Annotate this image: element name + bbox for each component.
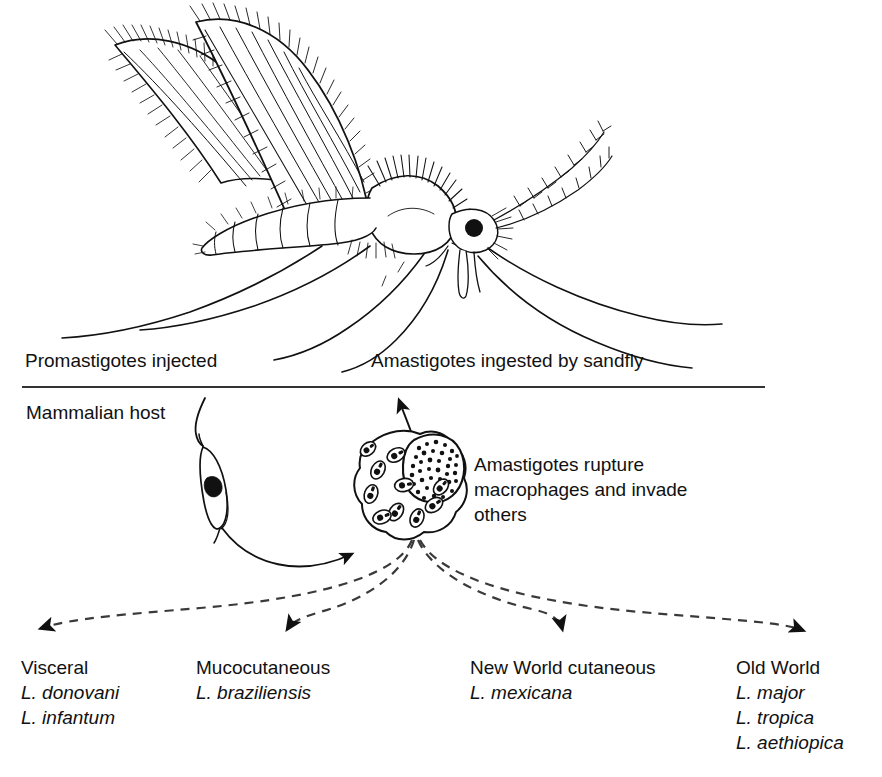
dissemination-arrows xyxy=(42,540,802,630)
mammalian-host-label: Mammalian host xyxy=(26,400,165,425)
outcome-visceral-heading: Visceral xyxy=(21,655,119,680)
arrow-to-visceral xyxy=(42,540,412,628)
outcome-old-world-species-0: L. major xyxy=(736,680,844,705)
rupture-line-2: macrophages and invade xyxy=(474,477,687,502)
rupture-line-1: Amastigotes rupture xyxy=(474,452,687,477)
outcome-mucocutaneous-species-0: L. braziliensis xyxy=(196,680,330,705)
promastigote-cell xyxy=(195,398,228,543)
outcome-mucocutaneous-heading: Mucocutaneous xyxy=(196,655,330,680)
outcome-new-world-cutaneous-species-0: L. mexicana xyxy=(470,680,656,705)
outcome-new-world-cutaneous-heading: New World cutaneous xyxy=(470,655,656,680)
outcome-visceral-species-1: L. infantum xyxy=(21,705,119,730)
invasion-arrow xyxy=(222,528,352,566)
rupture-line-3: others xyxy=(474,502,687,527)
amastigotes-rupture-caption: Amastigotes rupture macrophages and inva… xyxy=(474,452,687,527)
leishmania-lifecycle-figure: Promastigotes injected Amastigotes inges… xyxy=(0,0,882,777)
outcome-old-world-heading: Old World xyxy=(736,655,844,680)
arrow-to-mucocutaneous xyxy=(288,540,414,628)
promastigotes-injected-label: Promastigotes injected xyxy=(25,348,217,373)
outcome-old-world: Old World L. major L. tropica L. aethiop… xyxy=(736,655,844,755)
outcome-old-world-species-1: L. tropica xyxy=(736,705,844,730)
outcome-mucocutaneous: Mucocutaneous L. braziliensis xyxy=(196,655,330,705)
amastigotes-ingested-label: Amastigotes ingested by sandfly xyxy=(371,348,644,373)
outcome-old-world-species-2: L. aethiopica xyxy=(736,730,844,755)
outcome-new-world-cutaneous: New World cutaneous L. mexicana xyxy=(470,655,656,705)
arrow-to-old-world xyxy=(420,540,802,630)
outcome-visceral: Visceral L. donovani L. infantum xyxy=(21,655,119,730)
infected-macrophage xyxy=(354,431,467,540)
outcome-visceral-species-0: L. donovani xyxy=(21,680,119,705)
